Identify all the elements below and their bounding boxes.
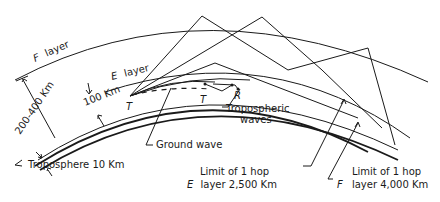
transmitter-tropo-marker: T [200, 94, 207, 105]
radio-propagation-diagram: F layer E layer 200-400 Km 100 Km T T R … [0, 0, 440, 202]
ground-wave-label: Ground wave [156, 139, 222, 150]
receiver-tropo-marker: R [234, 90, 241, 101]
troposphere-leader [15, 160, 22, 166]
troposphere-label: Troposphere 10 Km [27, 159, 125, 170]
transmitter-main-marker: T [126, 101, 133, 112]
f-layer-label: F layer [31, 38, 71, 64]
f-layer-arc [15, 30, 428, 82]
e-limit-label-line1: Limit of 1 hop [200, 166, 269, 177]
tropospheric-label-line2: waves [240, 114, 272, 125]
e-height-label: 100 Km [82, 83, 122, 108]
f-limit-label-line2: F layer 4,000 Km [337, 179, 428, 190]
tropospheric-label-line1: Tropospheric [225, 103, 290, 114]
e-layer-label: E layer [110, 62, 151, 82]
e-limit-label-line2: E layer 2,500 Km [187, 179, 277, 190]
f-limit-label-line1: Limit of 1 hop [352, 166, 421, 177]
